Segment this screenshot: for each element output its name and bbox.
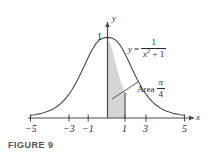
- equation-lhs: y: [128, 44, 132, 54]
- area-fraction: π 4: [157, 78, 166, 99]
- x-tick-label--5: −5: [25, 124, 37, 134]
- y-axis-label: y: [112, 14, 116, 23]
- x-tick-label--1: −1: [82, 124, 94, 134]
- x-axis-label: x: [196, 113, 200, 122]
- equation-numerator: 1: [149, 38, 158, 48]
- figure-caption: FIGURE 9: [8, 140, 54, 150]
- area-fraction-numerator: π: [157, 78, 166, 88]
- equation-denominator: x2 + 1: [141, 48, 166, 59]
- x-axis-arrow-icon: [189, 116, 194, 121]
- equation-annotation: y = 1 x2 + 1: [128, 38, 166, 59]
- equation-equals: =: [134, 44, 139, 54]
- equation-denominator-exponent: 2: [147, 48, 150, 54]
- equation-denominator-tail: + 1: [152, 49, 164, 59]
- equation-fraction: 1 x2 + 1: [141, 38, 166, 59]
- shaded-area-region: [108, 40, 126, 118]
- area-annotation: Area π 4: [137, 78, 165, 99]
- area-annotation-text: Area: [137, 84, 155, 94]
- x-tick-label--3: −3: [63, 124, 75, 134]
- y-axis-arrow-icon: [105, 22, 110, 27]
- x-tick-label-5: 5: [182, 124, 187, 134]
- x-tick-label-1: 1: [122, 124, 127, 134]
- plot-canvas: [0, 0, 219, 140]
- area-fraction-denominator: 4: [157, 88, 166, 99]
- x-tick-label-3: 3: [143, 124, 148, 134]
- y-tick-label-1: 1: [97, 32, 102, 42]
- figure-container: y x 1 −5 −3 −1 1 3 5 y = 1 x2 + 1 Area π…: [0, 0, 219, 158]
